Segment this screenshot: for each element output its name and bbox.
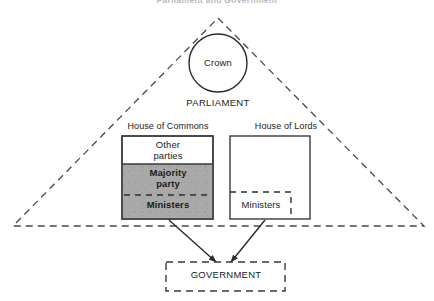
crown-label: Crown [178,58,258,69]
house-of-commons-title: House of Commons [108,121,228,131]
parliament-label: PARLIAMENT [172,98,264,109]
lords-ministers-label: Ministers [231,200,291,211]
diagram-canvas: Parliament and Government Crown PARLIAME… [0,0,434,301]
government-label: GOVERNMENT [166,270,286,281]
commons-other-parties-label: Other parties [128,140,208,161]
figure-title: Parliament and Government [0,0,434,6]
house-of-lords-title: House of Lords [232,121,340,131]
commons-ministers-label: Ministers [128,200,208,211]
commons-majority-party-label: Majority party [128,168,208,189]
diagram-graphics [0,0,434,301]
